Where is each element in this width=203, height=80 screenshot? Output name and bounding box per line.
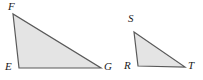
vertex-label-t: T: [188, 60, 194, 71]
triangles-canvas: [0, 0, 203, 80]
triangle-rst-shape: [134, 32, 185, 67]
vertex-label-r: R: [124, 60, 131, 71]
vertex-label-f: F: [8, 1, 15, 12]
vertex-label-g: G: [104, 61, 112, 72]
geometry-figure: F E G S R T: [0, 0, 203, 80]
triangle-efg-shape: [13, 14, 101, 68]
vertex-label-e: E: [5, 61, 12, 72]
vertex-label-s: S: [128, 13, 134, 24]
